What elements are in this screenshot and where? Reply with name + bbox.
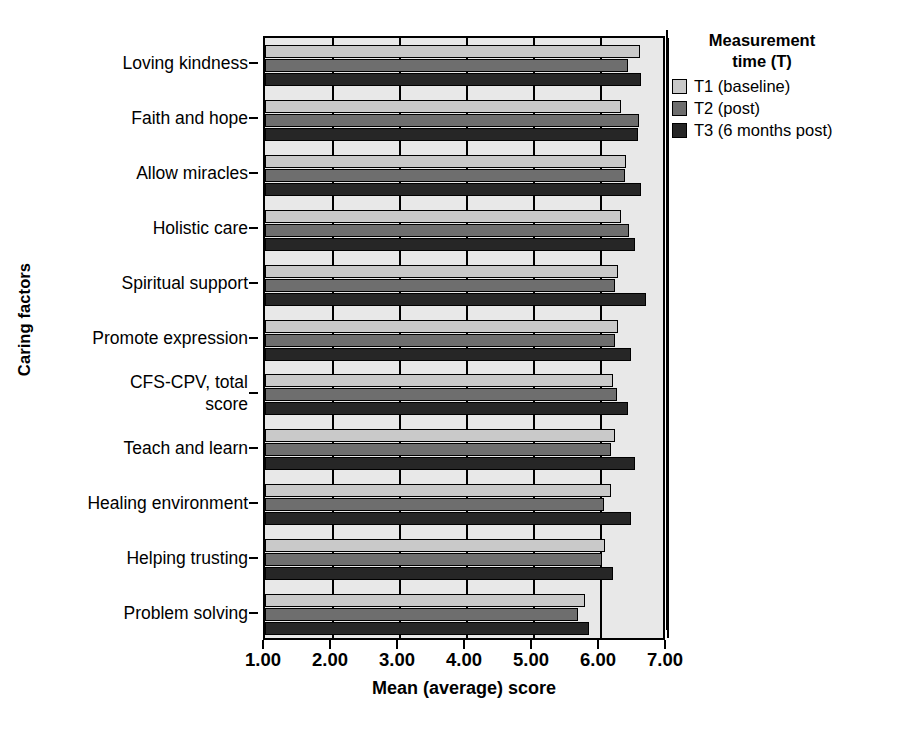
y-axis-tick-label: Faith and hope bbox=[131, 107, 248, 129]
y-axis-tick-labels: Loving kindnessFaith and hopeAllow mirac… bbox=[40, 36, 258, 640]
y-axis-tick-label: Helping trusting bbox=[126, 547, 248, 569]
x-axis-tick-mark bbox=[597, 640, 599, 649]
legend-entry-label: T3 (6 months post) bbox=[694, 121, 832, 140]
y-axis-tick-label: Healing environment bbox=[87, 492, 248, 514]
x-axis-ticks: 1.002.003.004.005.006.007.00 bbox=[263, 640, 665, 650]
bar bbox=[265, 279, 615, 292]
y-axis-tick-label: Promote expression bbox=[92, 327, 248, 349]
y-axis-tick-mark bbox=[249, 227, 258, 229]
legend-entry: T2 (post) bbox=[672, 99, 907, 118]
legend-title-line-2: time (T) bbox=[672, 51, 852, 72]
bar bbox=[265, 348, 631, 361]
bar bbox=[265, 59, 628, 72]
legend-entry-label: T2 (post) bbox=[694, 99, 760, 118]
bar bbox=[265, 334, 615, 347]
bar bbox=[265, 374, 613, 387]
bar bbox=[265, 293, 646, 306]
bar bbox=[265, 498, 604, 511]
y-axis-tick-mark bbox=[249, 392, 258, 394]
bar bbox=[265, 429, 615, 442]
y-axis-tick-mark bbox=[249, 117, 258, 119]
y-axis-tick-mark bbox=[249, 282, 258, 284]
bar bbox=[265, 265, 618, 278]
bar bbox=[265, 128, 638, 141]
bar bbox=[265, 45, 640, 58]
legend-swatch-icon bbox=[672, 79, 687, 94]
y-axis-tick-mark bbox=[249, 557, 258, 559]
legend-entries: T1 (baseline)T2 (post)T3 (6 months post) bbox=[672, 77, 907, 140]
x-axis-tick-mark bbox=[664, 640, 666, 649]
legend-entry: T3 (6 months post) bbox=[672, 121, 907, 140]
legend-swatch-icon bbox=[672, 101, 687, 116]
x-axis-tick-label: 5.00 bbox=[513, 649, 549, 671]
x-axis-tick-label: 4.00 bbox=[446, 649, 482, 671]
x-axis-tick-mark bbox=[530, 640, 532, 649]
x-axis-tick-label: 6.00 bbox=[580, 649, 616, 671]
legend-divider bbox=[666, 30, 668, 630]
legend-entry-label: T1 (baseline) bbox=[694, 77, 790, 96]
bar bbox=[265, 512, 631, 525]
legend-title-line-1: Measurement bbox=[672, 30, 852, 51]
x-axis-tick-mark bbox=[329, 640, 331, 649]
x-axis-tick-mark bbox=[396, 640, 398, 649]
bar bbox=[265, 553, 602, 566]
bar bbox=[265, 155, 626, 168]
bar bbox=[265, 183, 641, 196]
y-axis-title: Caring factors bbox=[15, 250, 34, 390]
plot-area bbox=[263, 36, 665, 640]
x-axis-tick-label: 1.00 bbox=[245, 649, 281, 671]
x-axis-tick-label: 3.00 bbox=[379, 649, 415, 671]
y-axis-tick-mark bbox=[249, 612, 258, 614]
x-axis-title: Mean (average) score bbox=[263, 678, 665, 699]
y-axis-tick-label: Loving kindness bbox=[123, 52, 249, 74]
bar bbox=[265, 567, 613, 580]
bar bbox=[265, 388, 617, 401]
y-axis-tick-label: CFS-CPV, total score bbox=[130, 371, 248, 415]
y-axis-tick-mark bbox=[249, 502, 258, 504]
bar bbox=[265, 238, 635, 251]
y-axis-tick-label: Allow miracles bbox=[136, 162, 248, 184]
chart-legend: Measurement time (T) T1 (baseline)T2 (po… bbox=[672, 30, 907, 143]
y-axis-tick-mark bbox=[249, 62, 258, 64]
y-axis-tick-label: Problem solving bbox=[124, 602, 249, 624]
bar bbox=[265, 224, 629, 237]
x-axis-tick-mark bbox=[262, 640, 264, 649]
bar bbox=[265, 169, 625, 182]
legend-swatch-icon bbox=[672, 123, 687, 138]
bar bbox=[265, 320, 618, 333]
y-axis-tick-mark bbox=[249, 337, 258, 339]
bar bbox=[265, 100, 621, 113]
bar bbox=[265, 539, 605, 552]
bar bbox=[265, 608, 578, 621]
legend-title: Measurement time (T) bbox=[672, 30, 852, 72]
legend-entry: T1 (baseline) bbox=[672, 77, 907, 96]
bar bbox=[265, 484, 611, 497]
bar bbox=[265, 114, 639, 127]
y-axis-tick-mark bbox=[249, 447, 258, 449]
x-axis-tick-label: 2.00 bbox=[312, 649, 348, 671]
bar bbox=[265, 457, 635, 470]
bar bbox=[265, 73, 641, 86]
bar bbox=[265, 402, 628, 415]
y-axis-tick-label: Teach and learn bbox=[123, 437, 248, 459]
bar bbox=[265, 622, 589, 635]
bar bbox=[265, 594, 585, 607]
y-axis-tick-label: Holistic care bbox=[153, 217, 248, 239]
y-axis-tick-mark bbox=[249, 172, 258, 174]
bar bbox=[265, 443, 611, 456]
bar bbox=[265, 210, 621, 223]
x-axis-tick-label: 7.00 bbox=[647, 649, 683, 671]
chart-figure: Caring factors Loving kindnessFaith and … bbox=[0, 0, 907, 739]
x-axis-tick-mark bbox=[463, 640, 465, 649]
y-axis-tick-label: Spiritual support bbox=[122, 272, 248, 294]
